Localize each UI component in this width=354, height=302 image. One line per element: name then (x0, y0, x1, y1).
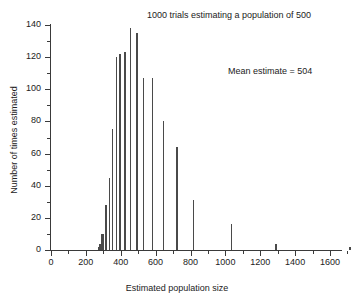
bar (193, 200, 195, 250)
x-tick-400 (121, 251, 122, 256)
histogram-bars (51, 25, 343, 250)
y-tick-0 (45, 250, 50, 251)
y-tick-70 (47, 138, 50, 139)
x-tick-300 (103, 251, 104, 254)
x-axis-line (50, 250, 342, 251)
x-tick-1200 (260, 251, 261, 256)
y-tick-80 (45, 121, 50, 122)
y-tick-10 (47, 234, 50, 235)
y-tick-60 (45, 154, 50, 155)
y-tick-120 (45, 57, 50, 58)
bar (176, 147, 178, 250)
y-tick-100 (45, 89, 50, 90)
x-tick-1700 (347, 251, 348, 254)
x-tick-1000 (225, 251, 226, 256)
y-tick-130 (47, 41, 50, 42)
x-tick-200 (86, 251, 87, 256)
x-tick-600 (156, 251, 157, 256)
y-tick-label-0: 0 (11, 244, 41, 254)
x-tick-1500 (313, 251, 314, 254)
x-tick-label-1600: 1600 (310, 257, 350, 267)
bar (275, 244, 277, 250)
x-tick-1300 (278, 251, 279, 254)
y-tick-40 (45, 186, 50, 187)
bar (109, 178, 111, 250)
y-tick-20 (45, 218, 50, 219)
bar (143, 78, 145, 250)
y-tick-label-120: 120 (11, 51, 41, 61)
x-tick-1400 (295, 251, 296, 256)
bar (136, 33, 138, 250)
x-tick-500 (138, 251, 139, 254)
bar (116, 57, 118, 250)
bar (105, 205, 107, 250)
bar (130, 28, 132, 250)
bar (119, 54, 121, 250)
bar (112, 129, 114, 250)
x-tick-1100 (243, 251, 244, 254)
y-tick-110 (47, 73, 50, 74)
x-tick-900 (208, 251, 209, 254)
y-tick-50 (47, 170, 50, 171)
x-axis-label: Estimated population size (0, 283, 354, 293)
y-tick-label-80: 80 (11, 115, 41, 125)
y-tick-140 (45, 25, 50, 26)
y-tick-label-140: 140 (11, 19, 41, 29)
bar (103, 234, 105, 250)
y-tick-label-60: 60 (11, 148, 41, 158)
chart-figure: 1000 trials estimating a population of 5… (0, 0, 354, 302)
bar (152, 78, 154, 250)
y-tick-label-40: 40 (11, 180, 41, 190)
x-tick-700 (173, 251, 174, 254)
y-tick-label-100: 100 (11, 83, 41, 93)
chart-title: 1000 trials estimating a population of 5… (147, 10, 311, 20)
y-tick-90 (47, 105, 50, 106)
bar (349, 247, 351, 250)
bar (163, 121, 165, 250)
bar (124, 52, 126, 250)
x-tick-100 (68, 251, 69, 254)
y-tick-label-20: 20 (11, 212, 41, 222)
bar (231, 224, 233, 250)
x-tick-0 (51, 251, 52, 256)
x-tick-800 (191, 251, 192, 256)
y-tick-30 (47, 202, 50, 203)
x-tick-1600 (330, 251, 331, 256)
